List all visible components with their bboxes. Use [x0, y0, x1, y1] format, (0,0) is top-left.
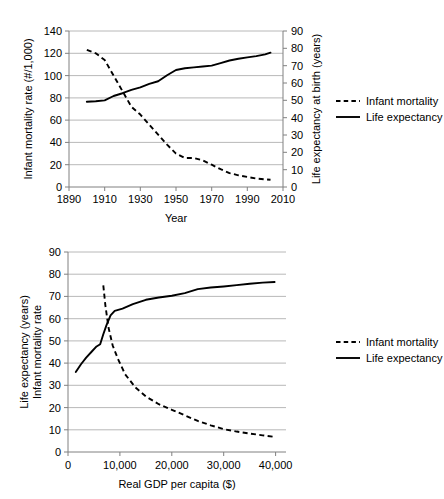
y2-axis-title-top: Life expectancy at birth (years) — [310, 34, 322, 184]
x-axis-title-bottom: Real GDP per capita ($) — [118, 478, 235, 490]
y-axis-title-bottom-line1: Life expectancy (years) — [18, 295, 30, 409]
chart-time-series: 140 120 100 80 60 40 20 0 90 80 70 60 50… — [0, 0, 444, 232]
legend-bottom: Infant mortality Life expectancy — [336, 336, 443, 364]
y2tick-label: 80 — [291, 42, 303, 54]
legend-label-life-expectancy: Life expectancy — [366, 111, 443, 123]
chart-gdp-cross-section: 90 80 70 60 50 40 30 20 10 0 0 10,000 20… — [0, 232, 444, 499]
ytick-label: 70 — [49, 290, 61, 302]
x-tick-labels-bottom: 0 10,000 20,000 30,000 40,000 — [65, 459, 292, 471]
xtick-label: 0 — [65, 459, 71, 471]
series-infant-mortality-bottom — [103, 285, 274, 437]
xtick-label: 40,000 — [259, 459, 293, 471]
xtick-label: 30,000 — [207, 459, 241, 471]
y-tickmarks-bottom — [64, 252, 68, 452]
ytick-label: 50 — [49, 335, 61, 347]
xtick-label: 1990 — [235, 193, 259, 205]
xtick-label: 10,000 — [103, 459, 137, 471]
xtick-label: 1890 — [57, 193, 81, 205]
legend-label-infant-mortality: Infant mortality — [366, 95, 439, 107]
y2tick-label: 20 — [291, 146, 303, 158]
right-tickmarks-top — [283, 31, 287, 187]
ytick-label: 0 — [56, 181, 62, 193]
y2tick-label: 30 — [291, 129, 303, 141]
xtick-label: 1970 — [199, 193, 223, 205]
y-tick-labels-bottom: 90 80 70 60 50 40 30 20 10 0 — [49, 246, 61, 458]
series-life-expectancy-top — [87, 53, 271, 102]
y2tick-label: 70 — [291, 60, 303, 72]
xtick-label: 1930 — [128, 193, 152, 205]
ytick-label: 60 — [50, 114, 62, 126]
left-tickmarks-top — [65, 31, 69, 187]
x-tickmarks-top — [69, 187, 283, 191]
ytick-label: 120 — [44, 47, 62, 59]
x-axis-title-top: Year — [165, 212, 188, 224]
ytick-label: 140 — [44, 25, 62, 37]
legend-label-infant-mortality: Infant mortality — [366, 336, 439, 348]
legend-top: Infant mortality Life expectancy — [336, 95, 443, 123]
y2tick-label: 60 — [291, 77, 303, 89]
xtick-label: 1910 — [92, 193, 116, 205]
y-axis-title-top: Infant mortality rate (#/1,000) — [22, 38, 34, 179]
left-tick-labels-top: 140 120 100 80 60 40 20 0 — [44, 25, 62, 193]
ytick-label: 60 — [49, 313, 61, 325]
y2tick-label: 40 — [291, 112, 303, 124]
x-tickmarks-bottom — [68, 452, 276, 456]
y2tick-label: 90 — [291, 25, 303, 37]
ytick-label: 40 — [49, 357, 61, 369]
y2tick-label: 10 — [291, 164, 303, 176]
ytick-label: 40 — [50, 136, 62, 148]
series-life-expectancy-bottom — [76, 282, 275, 372]
y-axis-title-bottom-line2: Infant mortality rate — [31, 305, 43, 399]
xtick-label: 1950 — [164, 193, 188, 205]
x-tick-labels-top: 1890 1910 1930 1950 1970 1990 2010 — [57, 193, 295, 205]
time-series-svg: 140 120 100 80 60 40 20 0 90 80 70 60 50… — [0, 0, 444, 232]
ytick-label: 30 — [49, 379, 61, 391]
ytick-label: 20 — [50, 159, 62, 171]
gdp-cross-section-svg: 90 80 70 60 50 40 30 20 10 0 0 10,000 20… — [0, 232, 444, 499]
ytick-label: 80 — [50, 92, 62, 104]
right-tick-labels-top: 90 80 70 60 50 40 30 20 10 0 — [291, 25, 303, 193]
ytick-label: 10 — [49, 424, 61, 436]
legend-label-life-expectancy: Life expectancy — [366, 352, 443, 364]
gridlines-top — [69, 31, 283, 165]
xtick-label: 2010 — [271, 193, 295, 205]
ytick-label: 20 — [49, 402, 61, 414]
ytick-label: 90 — [49, 246, 61, 258]
y2tick-label: 0 — [291, 181, 297, 193]
y2tick-label: 50 — [291, 94, 303, 106]
ytick-label: 0 — [55, 446, 61, 458]
ytick-label: 100 — [44, 70, 62, 82]
xtick-label: 20,000 — [155, 459, 189, 471]
ytick-label: 80 — [49, 268, 61, 280]
